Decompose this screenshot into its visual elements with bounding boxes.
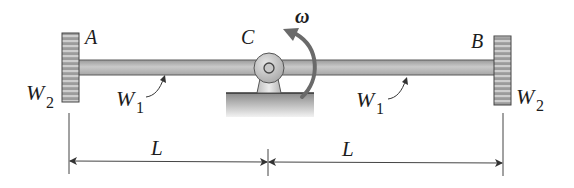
label-w2-left: W 2	[26, 80, 54, 111]
w1-left-leader	[146, 75, 166, 97]
label-omega: ω	[295, 5, 309, 27]
label-w2-right: W 2	[516, 84, 544, 114]
extension-lines	[69, 113, 503, 176]
svg-text:2: 2	[536, 97, 544, 114]
end-weight-left	[62, 33, 79, 102]
label-point-b: B	[471, 30, 483, 52]
label-dim-left: L	[150, 136, 163, 160]
end-weight-right	[494, 36, 511, 105]
svg-text:1: 1	[376, 100, 384, 117]
label-point-a: A	[83, 26, 98, 48]
dimension-lines	[70, 161, 502, 163]
svg-text:W: W	[116, 86, 136, 111]
rod	[78, 60, 496, 75]
label-point-c: C	[241, 26, 255, 48]
label-dim-right: L	[341, 137, 354, 161]
svg-text:W: W	[516, 84, 536, 109]
w1-right-leader	[388, 77, 408, 99]
svg-text:1: 1	[136, 99, 144, 116]
rotating-rod-diagram: A C ω B W 2 W 1 W 1 W 2 L L	[0, 0, 574, 188]
label-w1-right: W 1	[356, 87, 384, 117]
svg-text:2: 2	[46, 94, 54, 111]
label-w1-left: W 1	[116, 86, 144, 116]
svg-text:W: W	[26, 80, 46, 105]
pivot-c	[254, 53, 284, 93]
pivot-pin	[264, 63, 274, 73]
svg-text:W: W	[356, 87, 376, 112]
